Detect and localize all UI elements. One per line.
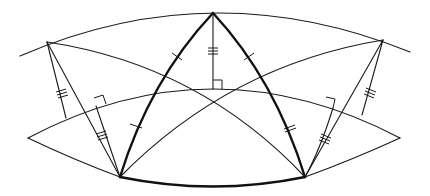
triangle-side-right	[213, 13, 305, 177]
tick-triple-right-3	[364, 94, 374, 98]
perp-right-inner	[305, 108, 333, 177]
tick-triple-left-1	[56, 89, 66, 92]
arc-upper-left-to-bottom-right	[47, 42, 305, 177]
tick-triple-right-1	[366, 88, 376, 92]
upper-great-arc	[20, 13, 410, 56]
right-angle-marker-left	[94, 95, 106, 104]
right-angle-marker-top	[213, 80, 222, 89]
perp-left-inner	[96, 106, 120, 177]
triangle-side-left	[120, 13, 213, 177]
tick-triple-left-2	[57, 92, 67, 95]
lens-lower-arc-right	[305, 138, 400, 177]
lens-lower-arc	[28, 138, 120, 177]
segment-upper-left-to-bottom-left	[47, 42, 120, 177]
tick-triple-right-2	[365, 91, 375, 95]
segment-upper-right-to-lens	[362, 40, 383, 115]
triangle-base	[120, 177, 305, 187]
right-angle-marker-right	[326, 97, 335, 108]
segment-upper-right-to-bottom-right	[305, 40, 383, 177]
spherical-triangle-diagram	[0, 0, 430, 196]
tick-triple-left-3	[58, 95, 68, 98]
segment-upper-left-to-lens	[47, 42, 66, 118]
lens-upper-arc	[28, 89, 400, 138]
